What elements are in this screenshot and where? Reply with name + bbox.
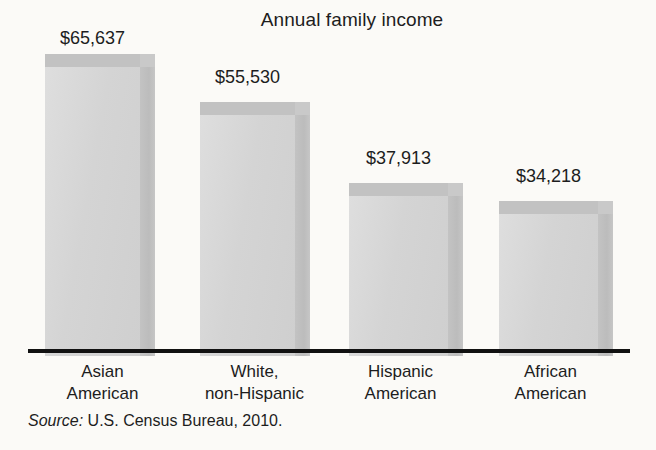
bar-front-face [200, 115, 295, 356]
bar-front-face [45, 67, 140, 356]
category-label-line-1: Asian [40, 361, 165, 383]
source-note: Source: U.S. Census Bureau, 2010. [28, 412, 282, 430]
value-label-asian-american: $65,637 [30, 28, 155, 49]
bar-top-face [499, 201, 598, 214]
axis-baseline [28, 349, 630, 353]
category-label-line-2: American [338, 383, 463, 405]
category-label-hispanic-american: Hispanic American [338, 361, 463, 405]
bar-side-face [598, 214, 613, 356]
bar-top-face [200, 102, 295, 115]
value-label-hispanic-american: $37,913 [336, 148, 461, 169]
category-label-line-1: African [488, 361, 613, 383]
bar-african-american [499, 201, 598, 356]
bar-side-face [448, 196, 463, 356]
category-label-asian-american: Asian American [40, 361, 165, 405]
bar-top-face [349, 183, 448, 196]
source-value: U.S. Census Bureau, 2010. [88, 412, 283, 429]
bar-front-face [349, 196, 448, 356]
bar-white-non-hispanic [200, 102, 295, 356]
bar-top-face-cap [140, 54, 155, 67]
bar-side-face [140, 67, 155, 356]
category-label-line-2: American [488, 383, 613, 405]
category-label-white-non-hispanic: White, non-Hispanic [187, 361, 322, 405]
bar-hispanic-american [349, 183, 448, 356]
value-label-white-non-hispanic: $55,530 [185, 67, 310, 88]
bar-top-face [45, 54, 140, 67]
bar-front-face [499, 214, 598, 356]
bar-side-face [295, 115, 310, 356]
category-label-line-2: non-Hispanic [187, 383, 322, 405]
bar-top-face-cap [295, 102, 310, 115]
category-label-african-american: African American [488, 361, 613, 405]
bar-top-face-cap [598, 201, 613, 214]
value-label-african-american: $34,218 [486, 166, 611, 187]
bar-chart: Annual family income [0, 0, 656, 450]
category-label-line-1: White, [187, 361, 322, 383]
bar-top-face-cap [448, 183, 463, 196]
source-label: Source: [28, 412, 83, 429]
category-label-line-1: Hispanic [338, 361, 463, 383]
bar-asian-american [45, 54, 140, 356]
category-label-line-2: American [40, 383, 165, 405]
